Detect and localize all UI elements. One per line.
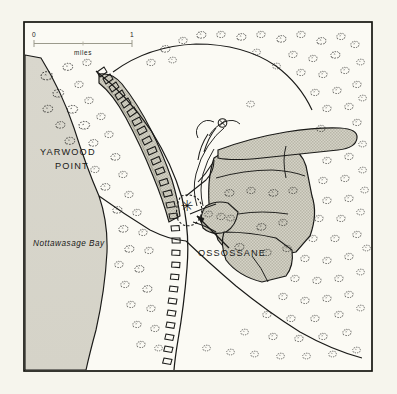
label-yarwood-point-line1: YARWOOD bbox=[40, 147, 96, 157]
label-ossossane: OSSOSSANE bbox=[198, 248, 266, 258]
scale-unit-label: miles bbox=[74, 49, 92, 56]
asterisk-site-marker[interactable]: ✳ bbox=[181, 197, 194, 215]
map-figure: ✳ YARWOOD POINT Nottawasage Bay OSSOSSAN… bbox=[0, 0, 397, 394]
scale-min-label: 0 bbox=[32, 31, 36, 38]
map-canvas: ✳ YARWOOD POINT Nottawasage Bay OSSOSSAN… bbox=[0, 0, 397, 394]
label-yarwood-point-line2: POINT bbox=[55, 161, 89, 171]
scale-max-label: 1 bbox=[130, 31, 134, 38]
label-nottawasage-bay: Nottawasage Bay bbox=[33, 239, 105, 248]
